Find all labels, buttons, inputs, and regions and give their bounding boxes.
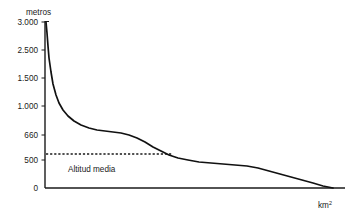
mean-altitude-label: Altitud media: [68, 165, 116, 174]
y-tick-label-3000: 3.000: [18, 18, 39, 27]
y-tick-label-1500: 1.500: [18, 74, 39, 83]
hypsographic-curve-line: [46, 22, 333, 188]
x-axis-title-superscript: 2: [329, 200, 332, 206]
y-axis-title: metros: [26, 8, 51, 17]
x-axis-title: km2: [318, 200, 332, 210]
y-tick-label-660: 660: [24, 131, 38, 140]
y-tick-label-500: 500: [24, 156, 38, 165]
chart-canvas: metros 3.000 2.500 1.500 1.000 660 500 0…: [0, 0, 353, 218]
y-tick-label-1000: 1.000: [18, 102, 39, 111]
hypsographic-curve-chart: metros 3.000 2.500 1.500 1.000 660 500 0…: [0, 0, 353, 218]
y-tick-label-2500: 2.500: [18, 46, 39, 55]
y-tick-label-0: 0: [33, 184, 38, 193]
x-axis-title-base: km: [318, 201, 329, 210]
